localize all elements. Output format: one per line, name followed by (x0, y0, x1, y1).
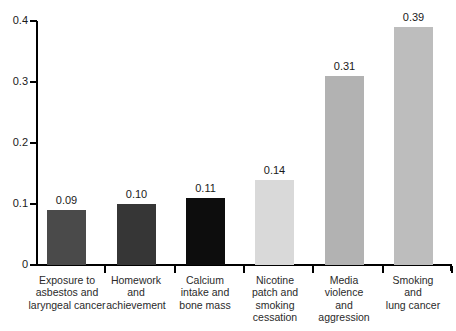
bar-value-label: 0.31 (315, 61, 374, 72)
bar[interactable] (186, 198, 225, 265)
bar[interactable] (394, 27, 433, 265)
y-tick-label: 0.1 (2, 198, 28, 209)
x-tick-mark (104, 266, 106, 273)
y-tick-mark (30, 20, 37, 22)
category-label-line: and (371, 286, 455, 298)
bar-value-label: 0.14 (245, 165, 304, 176)
x-tick-mark (174, 266, 176, 273)
category-label-line: lung cancer (371, 299, 455, 311)
bar[interactable] (117, 204, 156, 265)
plot-area: 00.10.20.30.4 0.090.100.110.140.310.39 E… (0, 0, 456, 331)
bar-chart: 00.10.20.30.4 0.090.100.110.140.310.39 E… (0, 0, 456, 331)
x-tick-mark (382, 266, 384, 273)
y-tick-label: 0.3 (2, 76, 28, 87)
x-tick-mark (451, 266, 453, 273)
y-tick-mark (30, 142, 37, 144)
category-label-line: Smoking (371, 274, 455, 286)
bar-value-label: 0.10 (107, 189, 166, 200)
y-tick-mark (30, 81, 37, 83)
x-tick-mark (243, 266, 245, 273)
bar[interactable] (255, 180, 294, 265)
y-tick-mark (30, 203, 37, 205)
y-tick-label: 0.2 (2, 137, 28, 148)
bar[interactable] (325, 76, 364, 265)
category-label: Smokingandlung cancer (371, 274, 455, 311)
bar-value-label: 0.39 (384, 12, 443, 23)
y-tick-label: 0.4 (2, 15, 28, 26)
bar-value-label: 0.09 (37, 195, 96, 206)
y-tick-mark (30, 264, 37, 266)
bar[interactable] (47, 210, 86, 265)
y-tick-label: 0 (2, 259, 28, 270)
bar-value-label: 0.11 (176, 183, 235, 194)
category-label-line: aggression (302, 311, 386, 323)
x-tick-mark (312, 266, 314, 273)
